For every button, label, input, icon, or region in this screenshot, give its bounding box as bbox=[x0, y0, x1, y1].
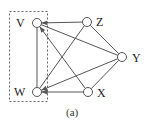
graph-diagram: V Z Y W X (a) bbox=[0, 0, 151, 127]
node-y bbox=[118, 53, 127, 62]
edge-v-y bbox=[41, 25, 118, 56]
node-label-z: Z bbox=[96, 16, 103, 28]
node-v bbox=[33, 19, 42, 28]
edges-group bbox=[37, 22, 119, 92]
node-label-x: X bbox=[97, 87, 106, 99]
node-label-v: V bbox=[16, 17, 25, 29]
node-label-y: Y bbox=[132, 52, 141, 64]
node-x bbox=[84, 88, 93, 97]
node-z bbox=[83, 18, 92, 27]
node-label-w: W bbox=[14, 86, 25, 98]
node-w bbox=[33, 88, 42, 97]
figure-caption: (a) bbox=[66, 107, 78, 118]
nodes-group bbox=[33, 18, 127, 97]
edge-y-w bbox=[41, 59, 118, 91]
